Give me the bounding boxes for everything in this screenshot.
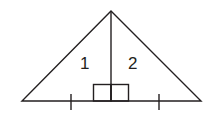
right-angle-mark-left bbox=[94, 85, 112, 102]
region-label-2: 2 bbox=[128, 54, 137, 73]
right-angle-mark-right bbox=[111, 85, 129, 102]
region-label-1: 1 bbox=[80, 54, 89, 73]
triangle-diagram: 1 2 bbox=[0, 0, 210, 118]
